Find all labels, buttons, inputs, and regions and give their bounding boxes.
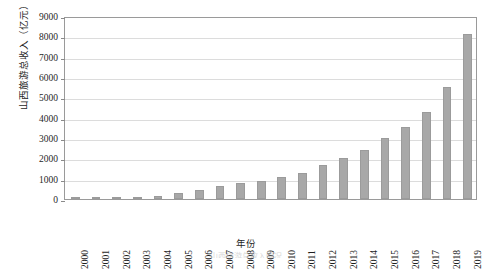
figure-caption: 山西旅游总收入情况 <box>0 250 492 258</box>
bar <box>257 181 266 199</box>
x-axis-tick-labels: 2000200120022003200420052006200720082009… <box>64 201 477 237</box>
bar <box>360 150 369 199</box>
bar <box>443 87 452 199</box>
y-tick-label: 9000 <box>39 12 58 22</box>
bar <box>71 197 80 199</box>
bar-series <box>65 18 476 199</box>
y-tick-label: 6000 <box>39 73 58 83</box>
bar <box>112 197 121 199</box>
bar <box>381 138 390 199</box>
bar <box>298 173 307 199</box>
plot-area <box>64 17 477 200</box>
bar <box>463 34 472 199</box>
bar <box>236 183 245 199</box>
bar <box>92 197 101 199</box>
x-axis-title: 年份 <box>0 236 492 250</box>
y-tick-label: 8000 <box>39 32 58 42</box>
y-tick-label: 3000 <box>39 134 58 144</box>
bar <box>216 186 225 199</box>
bar <box>195 190 204 199</box>
bar <box>319 165 328 199</box>
bar <box>277 177 286 199</box>
bar <box>133 197 142 199</box>
bar <box>174 193 183 199</box>
bar <box>339 158 348 199</box>
y-tick-label: 4000 <box>39 114 58 124</box>
bar <box>422 112 431 199</box>
y-axis-tick-labels: 0100020003000400050006000700080009000 <box>18 11 62 205</box>
bar <box>401 127 410 199</box>
y-tick-label: 5000 <box>39 93 58 103</box>
y-tick-label: 1000 <box>39 175 58 185</box>
y-tick-label: 7000 <box>39 53 58 63</box>
y-tick-label: 2000 <box>39 154 58 164</box>
y-tick-label: 0 <box>53 195 58 205</box>
bar <box>154 196 163 199</box>
